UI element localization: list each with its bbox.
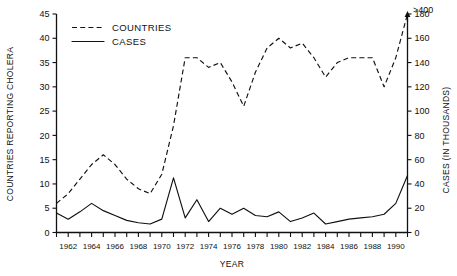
x-tick-label: 1962 (59, 242, 77, 251)
x-tick-label: 1990 (387, 242, 405, 251)
left-tick-label: 40 (39, 33, 49, 43)
x-axis-title: YEAR (220, 259, 244, 269)
x-tick-label: 1964 (83, 242, 101, 251)
series-line-countries (57, 14, 408, 203)
x-tick-label: 1974 (200, 242, 218, 251)
right-tick-label: 100 (415, 106, 430, 116)
axis-break-label: >400 (413, 5, 433, 15)
left-tick-label: 5 (44, 203, 49, 213)
y-axis-title: COUNTRIES REPORTING CHOLERA (5, 47, 15, 201)
series-line-cases (57, 175, 408, 224)
right-tick-label: 120 (415, 82, 430, 92)
chart-canvas: 051015202530354045 196219641966196819701… (0, 0, 457, 276)
bottom-axis: 1962196419661968197019721974197619781980… (57, 233, 408, 251)
right-tick-label: 0 (415, 228, 420, 238)
left-tick-label: 0 (44, 228, 49, 238)
legend-label-cases: CASES (112, 36, 146, 47)
x-tick-label: 1966 (106, 242, 124, 251)
x-tick-label: 1986 (340, 242, 358, 251)
x-tick-label: 1980 (270, 242, 288, 251)
right-tick-label: 140 (415, 58, 430, 68)
y2-axis-title: CASES (IN THOUSANDS) (441, 87, 451, 194)
left-tick-label: 45 (39, 9, 49, 19)
left-tick-label: 20 (39, 131, 49, 141)
left-axis: 051015202530354045 (39, 9, 56, 238)
x-tick-label: 1976 (223, 242, 241, 251)
left-tick-label: 35 (39, 58, 49, 68)
right-axis-tick-labels: 020406080100120140160180 (415, 9, 430, 238)
right-tick-label: 160 (415, 33, 430, 43)
x-tick-label: 1978 (247, 242, 265, 251)
legend-label-countries: COUNTRIES (112, 22, 172, 33)
right-tick-label: 60 (415, 155, 425, 165)
x-tick-label: 1984 (317, 242, 335, 251)
left-axis-tick-labels: 051015202530354045 (39, 9, 49, 238)
right-tick-label: 40 (415, 179, 425, 189)
left-tick-label: 30 (39, 82, 49, 92)
right-tick-label: 20 (415, 203, 425, 213)
right-tick-label: 80 (415, 131, 425, 141)
x-tick-label: 1988 (364, 242, 382, 251)
legend: COUNTRIES CASES (72, 22, 172, 47)
x-tick-label: 1970 (153, 242, 171, 251)
x-tick-label: 1968 (130, 242, 148, 251)
x-axis-ticks (57, 233, 408, 238)
right-axis: 020406080100120140160180 >400 (405, 5, 434, 238)
left-tick-label: 10 (39, 179, 49, 189)
cholera-chart: 051015202530354045 196219641966196819701… (0, 0, 457, 276)
left-tick-label: 15 (39, 155, 49, 165)
x-axis-tick-labels: 1962196419661968197019721974197619781980… (59, 242, 405, 251)
x-tick-label: 1982 (293, 242, 311, 251)
left-tick-label: 25 (39, 106, 49, 116)
x-tick-label: 1972 (176, 242, 194, 251)
axis-break-arrow (405, 11, 411, 22)
plot-series (57, 14, 408, 224)
